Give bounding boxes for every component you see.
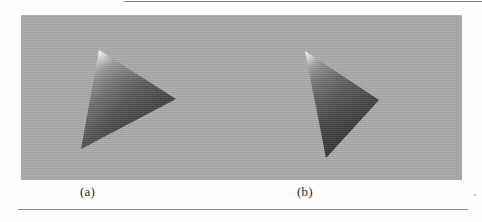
bottom-horizontal-rule xyxy=(18,209,468,210)
top-horizontal-rule xyxy=(124,1,482,2)
triangle-b xyxy=(293,41,393,166)
shaded-triangles-canvas xyxy=(21,15,462,180)
print-speck xyxy=(474,194,476,196)
figure-root: (a) (b) xyxy=(0,0,482,222)
caption-a: (a) xyxy=(80,184,95,200)
image-panel xyxy=(21,15,462,180)
triangle-a xyxy=(71,40,191,165)
caption-b: (b) xyxy=(297,184,313,200)
